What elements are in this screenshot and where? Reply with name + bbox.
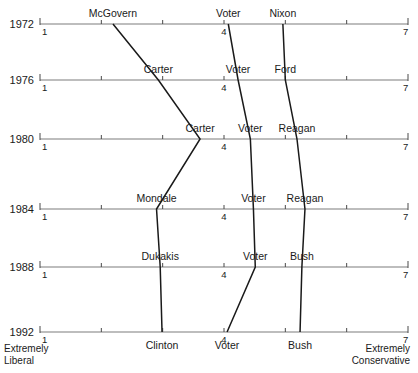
axis-row-1992: 1992147 (10, 326, 409, 345)
axis-mid-label-1984: 4 (221, 211, 226, 222)
point-label-1988-dukakis: Dukakis (142, 250, 179, 262)
scale-anchor-labels: ExtremelyLiberalExtremelyConservative (4, 343, 410, 366)
axis-min-label-1988: 1 (42, 269, 47, 280)
point-labels-layer: McGovernCarterCarterMondaleDukakisClinto… (89, 7, 324, 351)
point-label-1992-voter: Voter (215, 339, 240, 351)
axis-max-label-1972: 7 (403, 26, 408, 37)
point-label-1984-reagan: Reagan (287, 192, 324, 204)
axis-max-label-1984: 7 (403, 211, 408, 222)
axis-mid-label-1988: 4 (221, 269, 226, 280)
axis-min-label-1972: 1 (42, 26, 47, 37)
year-label-1984: 1984 (10, 203, 34, 215)
axis-mid-label-1972: 4 (221, 26, 226, 37)
axis-row-1980: 1980147 (10, 133, 409, 152)
point-label-1984-mondale: Mondale (136, 192, 176, 204)
point-label-1992-bush: Bush (288, 339, 312, 351)
axis-max-label-1988: 7 (403, 269, 408, 280)
anchor-left-line1: Extremely (4, 343, 48, 354)
ideology-placement-chart: 1972147197614719801471984147198814719921… (0, 0, 418, 373)
axis-row-1972: 1972147 (10, 18, 409, 37)
axis-row-1988: 1988147 (10, 261, 409, 280)
axes-layer: 1972147197614719801471984147198814719921… (10, 18, 409, 345)
anchor-left-line2: Liberal (4, 355, 34, 366)
year-label-1988: 1988 (10, 261, 34, 273)
point-label-1972-nixon: Nixon (269, 7, 296, 19)
anchor-right-line2: Conservative (352, 355, 411, 366)
axis-max-label-1976: 7 (403, 82, 408, 93)
axis-min-label-1980: 1 (42, 141, 47, 152)
axis-row-1984: 1984147 (10, 203, 409, 222)
point-label-1976-voter: Voter (226, 63, 251, 75)
anchor-right-line1: Extremely (366, 343, 410, 354)
point-label-1976-carter: Carter (144, 63, 174, 75)
point-label-1988-voter: Voter (243, 250, 268, 262)
axis-min-label-1976: 1 (42, 82, 47, 93)
year-label-1992: 1992 (10, 326, 34, 338)
axis-min-label-1984: 1 (42, 211, 47, 222)
axis-row-1976: 1976147 (10, 74, 409, 93)
point-label-1980-carter: Carter (185, 122, 215, 134)
point-label-1988-bush: Bush (290, 250, 314, 262)
point-label-1980-reagan: Reagan (279, 122, 316, 134)
point-label-1972-mcgovern: McGovern (89, 7, 138, 19)
point-label-1976-ford: Ford (275, 63, 297, 75)
chart-canvas: 1972147197614719801471984147198814719921… (0, 0, 418, 373)
point-label-1992-clinton: Clinton (146, 339, 179, 351)
axis-mid-label-1976: 4 (221, 82, 226, 93)
point-label-1984-voter: Voter (241, 192, 266, 204)
year-label-1980: 1980 (10, 133, 34, 145)
year-label-1972: 1972 (10, 18, 34, 30)
point-label-1972-voter: Voter (216, 7, 241, 19)
year-label-1976: 1976 (10, 74, 34, 86)
axis-max-label-1980: 7 (403, 141, 408, 152)
axis-mid-label-1980: 4 (221, 141, 226, 152)
point-label-1980-voter: Voter (238, 122, 263, 134)
